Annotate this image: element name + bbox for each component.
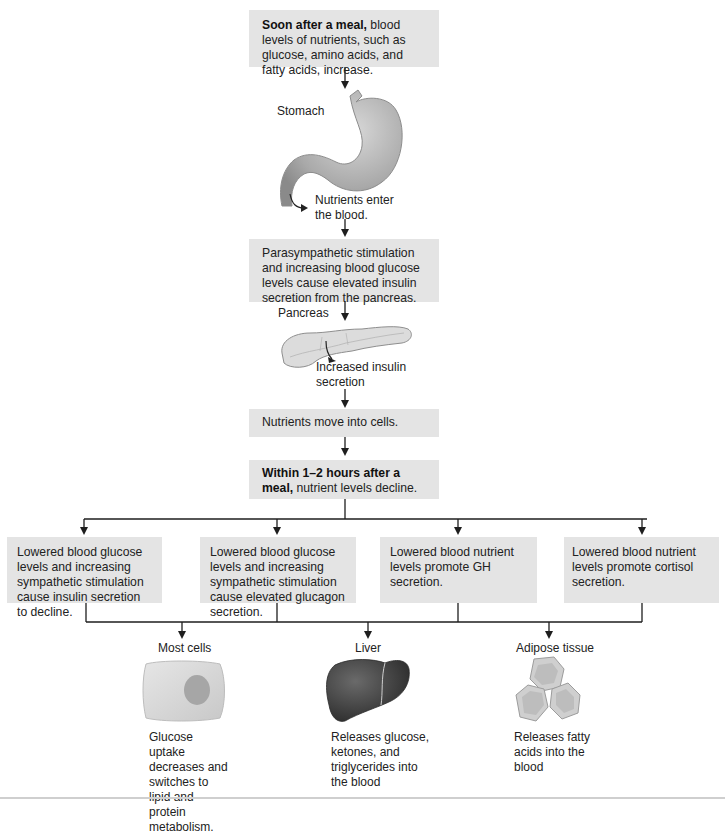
target-liver-description: Releases glucose, ketones, and triglycer… bbox=[331, 730, 431, 790]
response-glucagon-box: Lowered blood glucose levels and increas… bbox=[200, 537, 356, 603]
response-cortisol-text: Lowered blood nutrient levels promote co… bbox=[572, 545, 696, 589]
target-most-cells-description: Glucose uptake decreases and switches to… bbox=[149, 730, 229, 835]
adipose-tissue-icon bbox=[512, 655, 584, 725]
step-decline-text: nutrient levels decline. bbox=[293, 481, 417, 495]
response-gh-box: Lowered blood nutrient levels promote GH… bbox=[380, 537, 537, 603]
response-cortisol-box: Lowered blood nutrient levels promote co… bbox=[564, 537, 719, 603]
step-meal-bold: Soon after a meal, bbox=[262, 18, 367, 32]
target-liver-label: Liver bbox=[355, 641, 381, 656]
step-nutrients-cells-box: Nutrients move into cells. bbox=[249, 409, 439, 437]
response-gh-text: Lowered blood nutrient levels promote GH… bbox=[390, 545, 514, 589]
step-insulin-box: Parasympathetic stimulation and increasi… bbox=[249, 239, 439, 302]
response-insulin-decline-box: Lowered blood glucose levels and increas… bbox=[7, 537, 162, 603]
target-most-cells-label: Most cells bbox=[158, 641, 211, 656]
step-decline-box: Within 1–2 hours after a meal, nutrient … bbox=[249, 460, 439, 499]
stomach-annotation: Nutrients enter the blood. bbox=[315, 193, 395, 223]
step-nutrients-cells-text: Nutrients move into cells. bbox=[262, 415, 398, 429]
step-meal-box: Soon after a meal, blood levels of nutri… bbox=[249, 10, 439, 67]
target-adipose-label: Adipose tissue bbox=[516, 641, 594, 656]
bottom-divider bbox=[0, 797, 725, 799]
target-adipose-description: Releases fatty acids into the blood bbox=[514, 730, 594, 775]
liver-icon bbox=[325, 655, 410, 723]
pancreas-label: Pancreas bbox=[278, 306, 329, 321]
step-insulin-text: Parasympathetic stimulation and increasi… bbox=[262, 246, 420, 305]
pancreas-annotation: Increased insulin secretion bbox=[316, 360, 416, 390]
cell-icon bbox=[140, 658, 226, 724]
